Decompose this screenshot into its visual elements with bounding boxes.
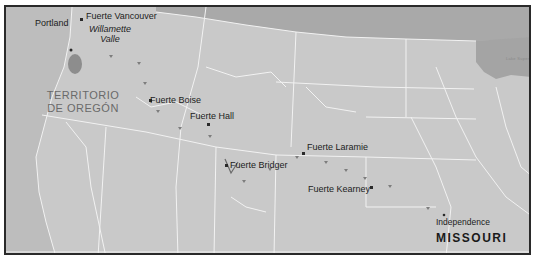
fort-boise-label: Fuerte Boise	[150, 95, 201, 105]
fort-hall-marker	[207, 123, 210, 126]
portland-label: Portland	[35, 18, 69, 28]
independence-marker	[443, 214, 446, 217]
fort-vancouver-marker	[80, 18, 83, 21]
missouri-label: MISSOURI	[436, 233, 507, 243]
fort-vancouver-label: Fuerte Vancouver	[86, 11, 157, 21]
willamette-label-line1: Willamette	[80, 24, 140, 34]
fort-laramie-label: Fuerte Laramie	[307, 142, 368, 152]
fort-bridger-label: Fuerte Bridger	[230, 160, 288, 170]
map-frame: Portland Fuerte Vancouver Willamette Val…	[4, 5, 531, 255]
trail-markers	[109, 55, 430, 210]
canada-region	[156, 7, 531, 41]
fort-laramie-marker	[302, 152, 305, 155]
fort-hall-label: Fuerte Hall	[190, 111, 234, 121]
willamette-valley-shape	[68, 54, 82, 74]
fort-kearney-marker	[370, 186, 373, 189]
lake-superior-label: Lake Super	[506, 54, 529, 64]
portland-marker	[70, 49, 73, 52]
fort-bridger-marker	[225, 164, 228, 167]
independence-label: Independence	[436, 217, 490, 227]
oregon-territory-label-line2: DE OREGÓN	[38, 102, 128, 114]
pacific-ocean	[6, 7, 72, 255]
fort-kearney-label: Fuerte Kearney	[308, 184, 370, 194]
willamette-label-line2: Valle	[80, 34, 140, 44]
oregon-territory-label-line1: TERRITORIO	[38, 89, 128, 101]
